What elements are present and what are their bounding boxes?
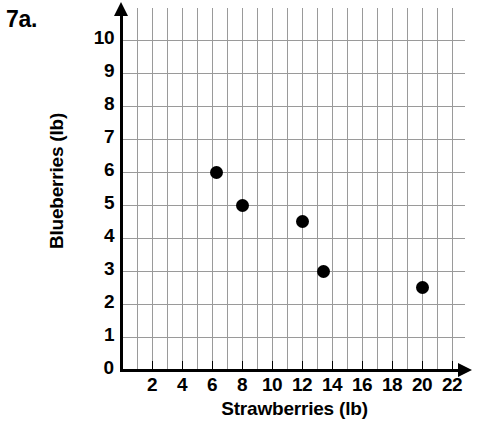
gridline-vertical xyxy=(287,8,288,370)
gridline-vertical xyxy=(437,8,438,370)
y-axis-tick-label: 10 xyxy=(84,27,114,49)
x-axis-tick-label: 8 xyxy=(227,374,257,396)
gridline-vertical xyxy=(317,8,318,370)
y-axis-tick-label: 5 xyxy=(84,192,114,214)
x-axis-tick xyxy=(272,361,273,370)
x-axis-tick-label: 6 xyxy=(197,374,227,396)
gridline-vertical xyxy=(377,8,378,370)
gridline-vertical xyxy=(302,8,303,370)
gridline-vertical xyxy=(272,8,273,370)
x-axis-tick xyxy=(332,361,333,370)
scatter-data-point xyxy=(317,265,330,278)
scatter-data-point xyxy=(236,199,249,212)
gridline-horizontal xyxy=(122,337,465,338)
y-axis-tick-label: 9 xyxy=(84,60,114,82)
x-axis-title: Strawberries (lb) xyxy=(122,398,467,420)
x-axis-tick-label: 14 xyxy=(317,374,347,396)
gridline-horizontal xyxy=(122,139,465,140)
gridline-vertical xyxy=(197,8,198,370)
gridline-horizontal xyxy=(122,304,465,305)
gridline-vertical xyxy=(452,8,453,370)
x-axis-tick xyxy=(422,361,423,370)
gridline-horizontal xyxy=(122,172,465,173)
gridline-vertical xyxy=(392,8,393,370)
problem-number-label: 7a. xyxy=(6,6,37,33)
gridline-vertical xyxy=(242,8,243,370)
scatter-data-point xyxy=(416,281,429,294)
x-axis-tick xyxy=(302,361,303,370)
x-axis-tick-label: 20 xyxy=(407,374,437,396)
gridline-horizontal xyxy=(122,73,465,74)
gridline-vertical xyxy=(152,8,153,370)
x-axis-tick-label: 16 xyxy=(347,374,377,396)
y-axis-tick-label: 6 xyxy=(84,159,114,181)
x-axis-tick-label: 4 xyxy=(167,374,197,396)
gridline-vertical xyxy=(227,8,228,370)
gridline-vertical xyxy=(362,8,363,370)
gridline-horizontal xyxy=(122,271,465,272)
gridline-vertical xyxy=(347,8,348,370)
x-axis-tick xyxy=(152,361,153,370)
x-axis-tick xyxy=(182,361,183,370)
gridline-vertical xyxy=(332,8,333,370)
gridline-vertical xyxy=(182,8,183,370)
scatter-plot-area xyxy=(122,8,465,370)
y-axis-arrow-icon xyxy=(114,2,128,16)
scatter-data-point xyxy=(296,215,309,228)
gridline-vertical xyxy=(407,8,408,370)
x-axis-tick xyxy=(212,361,213,370)
gridline-vertical xyxy=(167,8,168,370)
gridline-vertical xyxy=(137,8,138,370)
x-axis-tick xyxy=(242,361,243,370)
y-axis-tick-label: 4 xyxy=(84,225,114,247)
y-axis-line xyxy=(120,14,123,372)
gridline-horizontal xyxy=(122,238,465,239)
x-axis-tick xyxy=(392,361,393,370)
x-axis-tick xyxy=(362,361,363,370)
origin-label: 0 xyxy=(84,357,114,379)
gridline-horizontal xyxy=(122,40,465,41)
gridline-horizontal xyxy=(122,205,465,206)
y-axis-tick-label: 8 xyxy=(84,93,114,115)
x-axis-tick xyxy=(452,361,453,370)
y-axis-tick-label: 2 xyxy=(84,291,114,313)
x-axis-tick-label: 2 xyxy=(137,374,167,396)
gridline-vertical xyxy=(422,8,423,370)
gridline-vertical xyxy=(257,8,258,370)
x-axis-tick-label: 22 xyxy=(437,374,467,396)
y-axis-title: Blueberries (lb) xyxy=(46,71,68,291)
y-axis-tick-label: 1 xyxy=(84,324,114,346)
x-axis-tick-label: 10 xyxy=(257,374,287,396)
x-axis-tick-label: 18 xyxy=(377,374,407,396)
y-axis-tick-label: 3 xyxy=(84,258,114,280)
y-axis-tick-label: 7 xyxy=(84,126,114,148)
x-axis-tick-label: 12 xyxy=(287,374,317,396)
x-axis-line xyxy=(120,369,460,372)
gridline-vertical xyxy=(212,8,213,370)
scatter-data-point xyxy=(210,166,223,179)
gridline-horizontal xyxy=(122,106,465,107)
